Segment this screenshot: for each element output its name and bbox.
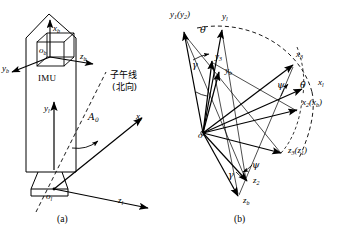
panel-a-caption: (a) <box>57 214 68 224</box>
label-x3: x3 <box>296 50 303 59</box>
label-z3-z1: z3(z1) <box>288 146 307 155</box>
frame-b-vectors <box>184 30 302 196</box>
arc-gamma-upper <box>196 92 207 96</box>
axis-zl <box>54 189 148 208</box>
label-gamma-lower: γ <box>228 170 234 180</box>
launch-frame-axes <box>54 102 148 208</box>
figure-container: xb yb zb ob IMU yl xl zl ol A0 子午线 (北向) … <box>0 0 339 235</box>
label-psi-lower: ψ <box>252 160 259 170</box>
origin-ol-dot <box>53 188 56 191</box>
label-yb: yb <box>2 64 9 73</box>
label-ol: ol <box>46 192 52 201</box>
vector-y1y2 <box>184 32 203 133</box>
label-psi-upper: ψ <box>277 80 284 90</box>
vector-x2xb <box>203 110 297 133</box>
vector-z3z1 <box>203 133 281 153</box>
label-xl: xl <box>136 112 142 121</box>
panel-b-caption: (b) <box>234 214 245 224</box>
vector-zb <box>203 133 238 196</box>
label-yl: yl <box>44 104 50 113</box>
label-origin-o: o <box>198 131 203 140</box>
label-imu: IMU <box>38 73 56 83</box>
label-y1-y2: y1(y2) <box>170 10 190 19</box>
label-ob: ob <box>39 46 47 55</box>
label-xb: xb <box>53 24 60 33</box>
label-zb: zb <box>80 52 87 61</box>
axis-yb <box>12 57 50 72</box>
label-yl-b: yl <box>222 12 228 21</box>
label-y3: y3 <box>215 52 222 61</box>
label-azimuth-A0: A0 <box>88 112 99 122</box>
angle-dashed-arcs <box>281 47 304 153</box>
rocket-body-outline <box>26 14 76 196</box>
axis-xl <box>54 118 142 189</box>
label-gamma-upper: γ <box>192 60 198 70</box>
label-z2: z2 <box>253 176 260 185</box>
label-zb-b: zb <box>243 196 250 205</box>
label-theta-right: θ <box>300 80 306 90</box>
label-theta-top: θ <box>200 25 206 35</box>
label-xl-b: xl <box>318 78 324 87</box>
label-yb-b: yb <box>225 66 232 75</box>
label-meridian-line2: (北向) <box>112 80 137 93</box>
vector-yb <box>203 72 219 133</box>
label-x2-xb: x2(xb) <box>302 98 322 107</box>
label-zl: zl <box>118 196 123 205</box>
